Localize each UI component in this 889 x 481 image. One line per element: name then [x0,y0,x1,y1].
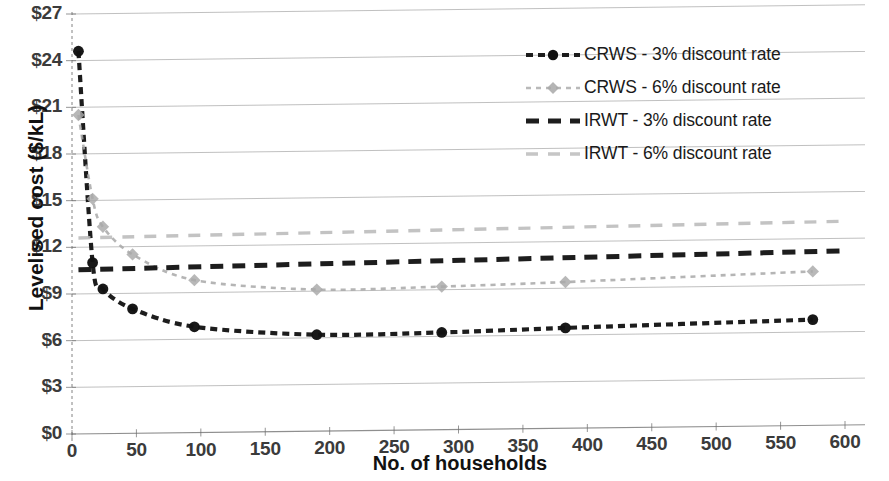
x-tick-label: 450 [622,433,682,455]
data-point-marker [311,329,322,340]
data-point-marker [807,265,819,277]
data-point-marker [73,46,84,57]
data-point-marker [126,248,138,260]
data-point-marker [436,280,448,292]
legend-item: IRWT - 6% discount rate [524,137,854,170]
y-axis-ticks-group [66,14,76,434]
legend-item: CRWS - 3% discount rate [524,38,854,71]
data-point-marker [559,276,571,288]
data-point-marker [87,257,98,268]
data-point-marker [127,303,138,314]
data-point-marker [72,109,84,121]
legend-label: CRWS - 3% discount rate [584,44,781,65]
x-tick-label: 100 [171,439,231,461]
series-line [78,251,845,270]
legend-label: IRWT - 3% discount rate [584,110,772,131]
legend-swatch-icon [524,79,582,97]
data-point-marker [86,193,98,205]
data-point-marker [189,321,200,332]
legend-swatch-icon [524,112,582,130]
x-tick-label: 0 [42,440,102,462]
legend-swatch-icon [524,145,582,163]
y-tick-label: $27 [0,2,62,24]
y-axis-title: Levelised cost ($/kL) [24,68,48,348]
legend-label: CRWS - 6% discount rate [584,77,781,98]
series-3 [78,251,845,270]
data-point-marker [436,327,447,338]
data-point-marker [98,284,109,295]
legend-label: IRWT - 6% discount rate [584,143,772,164]
x-axis-title: No. of households [330,452,590,475]
legend-swatch-icon [524,46,582,64]
legend-item: IRWT - 3% discount rate [524,104,854,137]
data-point-marker [188,274,200,286]
chart-container: $0$3$6$9$12$15$18$21$24$27 0501001502002… [0,0,889,481]
x-tick-label: 50 [106,439,166,461]
chart-legend: CRWS - 3% discount rateCRWS - 6% discoun… [524,38,854,170]
x-tick-label: 150 [235,438,295,460]
data-point-marker [807,314,818,325]
series-4 [78,221,845,238]
x-tick-label: 550 [751,432,811,454]
x-tick-label: 500 [686,433,746,455]
series-line [78,221,845,238]
legend-item: CRWS - 6% discount rate [524,71,854,104]
data-point-marker [560,323,571,334]
data-point-marker [311,283,323,295]
x-tick-label: 600 [815,431,875,453]
y-tick-label: $3 [0,375,62,397]
